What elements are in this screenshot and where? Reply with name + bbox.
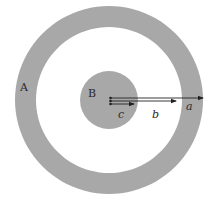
arrow-origin-dots xyxy=(109,97,112,106)
concentric-spheres-diagram: A B a b c xyxy=(0,0,218,200)
inner-sphere-b xyxy=(80,71,138,129)
label-radius-b: b xyxy=(152,108,159,121)
label-radius-c: c xyxy=(118,108,124,121)
label-b-sphere: B xyxy=(88,87,96,100)
label-a-shell: A xyxy=(19,81,29,94)
label-radius-a: a xyxy=(186,100,193,113)
